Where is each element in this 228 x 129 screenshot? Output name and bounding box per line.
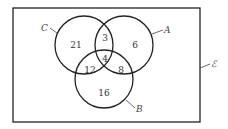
region-a-b-c: 4 — [102, 54, 108, 64]
set-c-leader-line — [50, 28, 57, 33]
region-a-and-c: 3 — [102, 33, 108, 43]
region-a-only: 6 — [132, 40, 138, 50]
set-b-label: B — [135, 104, 143, 114]
set-a-circle — [95, 16, 153, 74]
set-c-label: C — [41, 23, 48, 33]
region-b-only: 16 — [98, 88, 110, 98]
universal-set-label: ℰ — [211, 59, 218, 69]
universal-set-leader-line — [200, 64, 210, 68]
region-a-and-b: 8 — [118, 65, 124, 75]
set-a-leader-line — [152, 30, 163, 34]
set-a-label: A — [163, 25, 171, 35]
region-b-and-c: 12 — [84, 65, 95, 75]
region-c-only: 21 — [70, 40, 81, 50]
set-b-leader-line — [126, 100, 135, 108]
venn-diagram: C A B ℰ 21 3 6 4 12 8 16 — [0, 0, 228, 129]
